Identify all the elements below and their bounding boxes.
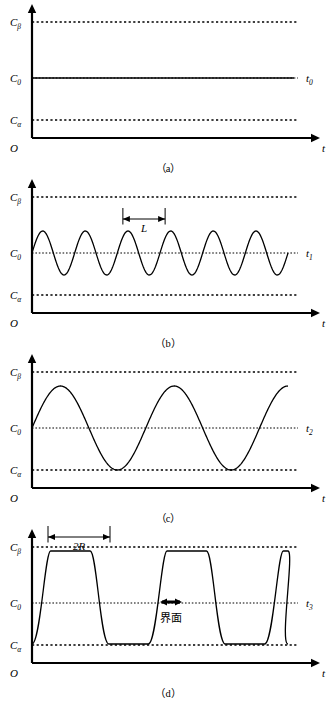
y-axis-arrow — [28, 4, 36, 13]
y-axis-arrow — [28, 529, 36, 538]
y-label-calpha: Cα — [10, 114, 22, 129]
panel-caption-0: （a） — [0, 160, 336, 175]
x-axis-arrow — [311, 659, 320, 667]
panel-（d）: 2R 界面 Cβ C0 Cα O t t3 （d） — [0, 525, 336, 700]
interface-marker: 界面 — [160, 599, 182, 626]
x-axis-label: t — [322, 492, 326, 504]
y-label-cbeta: Cβ — [10, 541, 21, 556]
curve-square — [32, 551, 290, 644]
origin-label: O — [10, 317, 18, 329]
x-axis-arrow — [311, 134, 320, 142]
curve-label-t2: t2 — [306, 422, 313, 437]
x-axis-label: t — [322, 667, 326, 679]
y-label-calpha: Cα — [10, 639, 22, 654]
origin-label: O — [10, 142, 18, 154]
plateau-width-marker-2R: 2R — [48, 526, 110, 552]
x-axis-label: t — [322, 317, 326, 329]
y-label-cbeta: Cβ — [10, 16, 21, 31]
y-label-czero: C0 — [10, 597, 21, 612]
panel-caption-2: （c） — [0, 510, 336, 525]
panel-（b）: L Cβ C0 Cα O t t1 （b） — [0, 175, 336, 350]
y-label-czero: C0 — [10, 247, 21, 262]
panel-（a）: Cβ C0 Cα O t t0 （a） — [0, 0, 336, 175]
x-axis-label: t — [322, 142, 326, 154]
wavelength-marker-L-text: L — [140, 222, 147, 234]
interface-label: 界面 — [160, 612, 182, 625]
y-axis-arrow — [28, 179, 36, 188]
y-label-cbeta: Cβ — [10, 366, 21, 381]
origin-label: O — [10, 492, 18, 504]
y-axis-arrow — [28, 354, 36, 363]
wavelength-marker-L: L — [123, 208, 165, 234]
y-label-calpha: Cα — [10, 289, 22, 304]
panel-caption-3: （d） — [0, 685, 336, 700]
plateau-width-marker-2R-text: 2R — [73, 540, 86, 552]
x-axis-arrow — [311, 484, 320, 492]
y-label-calpha: Cα — [10, 464, 22, 479]
curve-label-t1: t1 — [306, 247, 313, 262]
origin-label: O — [10, 667, 18, 679]
x-axis-arrow — [311, 309, 320, 317]
curve-label-t0: t0 — [306, 72, 313, 87]
y-label-czero: C0 — [10, 422, 21, 437]
panel-（c）: Cβ C0 Cα O t t2 （c） — [0, 350, 336, 525]
panel-caption-1: （b） — [0, 335, 336, 350]
y-label-czero: C0 — [10, 72, 21, 87]
curve-label-t3: t3 — [306, 597, 313, 612]
y-label-cbeta: Cβ — [10, 191, 21, 206]
